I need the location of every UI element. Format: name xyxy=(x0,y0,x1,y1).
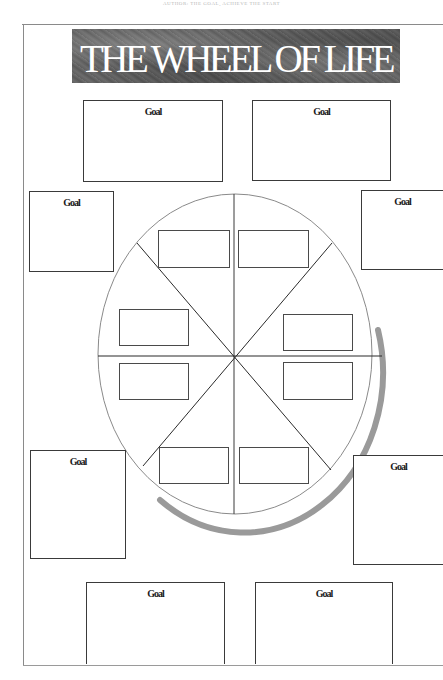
goal-label: Goal xyxy=(354,461,443,472)
goal-box-lower-left[interactable]: Goal xyxy=(30,450,126,559)
goal-label: Goal xyxy=(31,456,125,467)
segment-box-top-left[interactable] xyxy=(158,230,230,268)
goal-box-middle-right[interactable]: Goal xyxy=(361,190,443,270)
goal-box-middle-left[interactable]: Goal xyxy=(29,191,114,272)
segment-box-upper-right[interactable] xyxy=(283,314,353,351)
goal-box-bottom-left[interactable]: Goal xyxy=(86,582,225,664)
segment-box-lower-left[interactable] xyxy=(119,363,189,400)
goal-label: Goal xyxy=(30,197,113,208)
segment-box-upper-left[interactable] xyxy=(119,309,189,346)
goal-label: Goal xyxy=(87,588,224,599)
segment-box-lower-right[interactable] xyxy=(283,362,353,400)
goal-label: Goal xyxy=(253,106,390,117)
goal-label: Goal xyxy=(84,106,222,117)
goal-box-top-right[interactable]: Goal xyxy=(252,100,391,181)
goal-box-bottom-right[interactable]: Goal xyxy=(255,582,393,664)
wheel-outline xyxy=(98,194,372,514)
segment-box-top-right[interactable] xyxy=(238,230,309,268)
goal-box-top-left[interactable]: Goal xyxy=(83,100,223,182)
segment-box-bottom-left[interactable] xyxy=(159,447,229,484)
goal-label: Goal xyxy=(362,196,443,207)
goal-box-lower-right[interactable]: Goal xyxy=(353,455,443,565)
goal-label: Goal xyxy=(256,588,392,599)
segment-box-bottom-right[interactable] xyxy=(239,447,309,484)
